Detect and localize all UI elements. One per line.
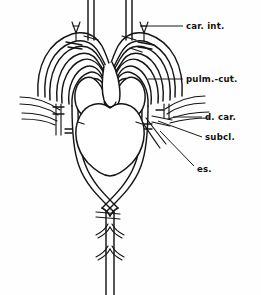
label-subcl: subcl. xyxy=(205,132,235,142)
label-car-int: car. int. xyxy=(186,21,224,31)
label-pulm-cut: pulm.-cut. xyxy=(186,74,238,84)
anatomical-diagram: car. int. pulm.-cut. d. car. subcl. es. xyxy=(0,0,261,295)
leader-subcl xyxy=(158,121,202,137)
left-arch-ticks xyxy=(66,42,82,49)
left-lateral-vessels xyxy=(20,97,60,125)
left-connector-vessel xyxy=(53,104,72,135)
left-carotid-gland xyxy=(72,22,80,41)
leader-lines xyxy=(140,26,202,166)
leader-es xyxy=(160,131,194,166)
segmental-arteries xyxy=(96,212,124,260)
figure-canvas: car. int. pulm.-cut. d. car. subcl. es. xyxy=(0,0,261,295)
label-d-car: d. car. xyxy=(205,112,236,122)
right-lateral-vessels xyxy=(165,96,209,123)
right-carotid-gland xyxy=(140,22,148,41)
label-es: es. xyxy=(197,164,212,174)
